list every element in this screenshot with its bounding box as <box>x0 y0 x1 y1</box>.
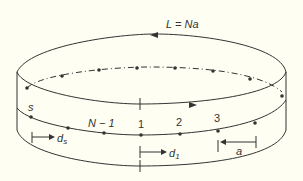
site-s-label: s <box>28 101 34 113</box>
cylinder-top-front <box>17 72 286 104</box>
ring-front <box>17 100 286 135</box>
ring-lattice-diagram: L = Na s N − 1 1 2 3 ds d1 a <box>0 0 303 181</box>
site-2-label: 2 <box>176 116 182 128</box>
site-3-label: 3 <box>214 112 220 124</box>
d1-label: d1 <box>169 147 180 161</box>
site-n-minus-1-label: N − 1 <box>88 117 115 129</box>
circumference-label: L = Na <box>166 18 199 30</box>
site-1-label: 1 <box>138 118 144 130</box>
spacing-a-label: a <box>236 145 242 157</box>
ring-back-dashed <box>27 67 282 92</box>
cylinder-top-back <box>17 34 286 72</box>
ds-label: ds <box>57 132 67 146</box>
